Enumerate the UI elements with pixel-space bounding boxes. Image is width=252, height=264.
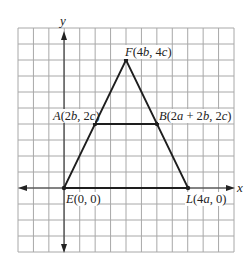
coordinate-diagram: y x F(4b, 4c) A(2b, 2c) B(2a + 2b, 2c) E… [0, 0, 252, 264]
x-axis-left-arrow-icon [18, 185, 27, 191]
point-E [62, 186, 66, 190]
y-axis-up-arrow-icon [61, 31, 67, 40]
label-L: L(4a, 0) [185, 192, 226, 206]
diagram-canvas: y x F(4b, 4c) A(2b, 2c) B(2a + 2b, 2c) E… [0, 0, 252, 264]
label-A: A(2b, 2c) [52, 109, 100, 123]
x-axis-label: x [236, 180, 243, 195]
label-E: E(0, 0) [65, 192, 101, 206]
label-F: F(4b, 4c) [124, 45, 172, 59]
y-axis-label: y [58, 13, 66, 28]
label-B: B(2a + 2b, 2c) [159, 109, 231, 123]
point-L [186, 186, 190, 190]
